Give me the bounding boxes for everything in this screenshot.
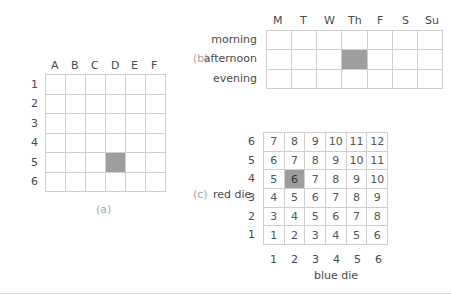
row-label-evening: evening	[213, 73, 257, 84]
row-label-2: 2	[31, 98, 38, 109]
cell	[86, 94, 106, 114]
blue-die-label-6: 6	[375, 254, 382, 265]
blue-die-label-4: 4	[333, 254, 340, 265]
cell	[66, 153, 86, 173]
day-label-su: Su	[425, 15, 439, 26]
sum-cell: 6	[325, 207, 346, 226]
sum-cell: 11	[346, 133, 367, 152]
day-label-t: T	[300, 15, 307, 26]
cell	[106, 94, 126, 114]
row-label-3: 3	[31, 118, 38, 129]
blue-die-label-3: 3	[312, 254, 319, 265]
cell	[367, 69, 392, 88]
sum-cell: 9	[346, 170, 367, 189]
day-label-th: Th	[348, 15, 362, 26]
cell	[292, 69, 317, 88]
sum-cell: 4	[284, 207, 305, 226]
blue-die-label-1: 1	[270, 254, 277, 265]
cell	[46, 133, 66, 153]
day-label-m: M	[273, 15, 283, 26]
row-label-5: 5	[31, 157, 38, 168]
cell	[106, 114, 126, 134]
highlighted-cell-d5	[106, 153, 126, 173]
red-die-label-4: 4	[248, 173, 255, 184]
cell	[267, 50, 292, 69]
sum-cell: 7	[346, 207, 367, 226]
cell	[46, 94, 66, 114]
cell	[317, 69, 342, 88]
cell	[392, 69, 417, 88]
day-label-w: W	[324, 15, 335, 26]
cell	[392, 50, 417, 69]
row-label-4: 4	[31, 137, 38, 148]
cell	[106, 133, 126, 153]
sum-cell: 5	[346, 226, 367, 245]
sum-cell: 10	[325, 133, 346, 152]
cell	[292, 31, 317, 50]
cell	[146, 94, 166, 114]
col-label-c: C	[91, 60, 99, 71]
cell	[417, 31, 442, 50]
sum-cell: 6	[264, 151, 285, 170]
sum-cell: 8	[305, 151, 326, 170]
cell	[392, 31, 417, 50]
caption-c: (c)	[193, 189, 208, 200]
sum-cell: 10	[367, 170, 388, 189]
sum-cell: 6	[367, 226, 388, 245]
cell	[146, 114, 166, 134]
sum-cell: 2	[284, 226, 305, 245]
sum-cell: 8	[284, 133, 305, 152]
col-label-e: E	[131, 60, 138, 71]
cell	[66, 75, 86, 95]
row-label-6: 6	[31, 176, 38, 187]
cell	[106, 75, 126, 95]
sum-cell: 9	[325, 151, 346, 170]
cell	[86, 133, 106, 153]
cell	[46, 75, 66, 95]
cell	[146, 75, 166, 95]
cell	[292, 50, 317, 69]
grid-a	[45, 74, 166, 192]
blue-die-label-5: 5	[354, 254, 361, 265]
caption-a: (a)	[96, 204, 111, 215]
red-die-label-2: 2	[248, 211, 255, 222]
sum-cell: 10	[346, 151, 367, 170]
red-die-label-6: 6	[248, 136, 255, 147]
x-axis-label: blue die	[314, 270, 358, 281]
sum-cell: 11	[367, 151, 388, 170]
day-label-f: F	[377, 15, 383, 26]
y-axis-label: red die	[213, 189, 251, 200]
sum-cell: 5	[264, 170, 285, 189]
sum-cell: 3	[264, 207, 285, 226]
sum-cell: 7	[305, 170, 326, 189]
cell	[317, 50, 342, 69]
col-label-a: A	[51, 60, 59, 71]
row-label-afternoon: afternoon	[204, 53, 257, 64]
row-label-1: 1	[31, 79, 38, 90]
bottom-divider	[0, 293, 451, 294]
sum-cell: 5	[305, 207, 326, 226]
cell	[86, 153, 106, 173]
col-label-d: D	[111, 60, 119, 71]
caption-b: (b)	[193, 53, 209, 64]
cell	[126, 153, 146, 173]
sum-cell: 4	[264, 188, 285, 207]
cell	[367, 50, 392, 69]
cell	[267, 31, 292, 50]
row-label-morning: morning	[211, 34, 257, 45]
cell	[317, 31, 342, 50]
sum-cell: 6	[305, 188, 326, 207]
sum-cell: 1	[264, 226, 285, 245]
sum-cell: 8	[325, 170, 346, 189]
cell	[126, 114, 146, 134]
cell	[342, 69, 367, 88]
sum-cell: 3	[305, 226, 326, 245]
cell	[46, 172, 66, 192]
sum-cell: 8	[367, 207, 388, 226]
sum-cell: 4	[325, 226, 346, 245]
sum-cell: 9	[305, 133, 326, 152]
cell	[342, 31, 367, 50]
cell	[126, 75, 146, 95]
cell	[86, 75, 106, 95]
cell	[367, 31, 392, 50]
